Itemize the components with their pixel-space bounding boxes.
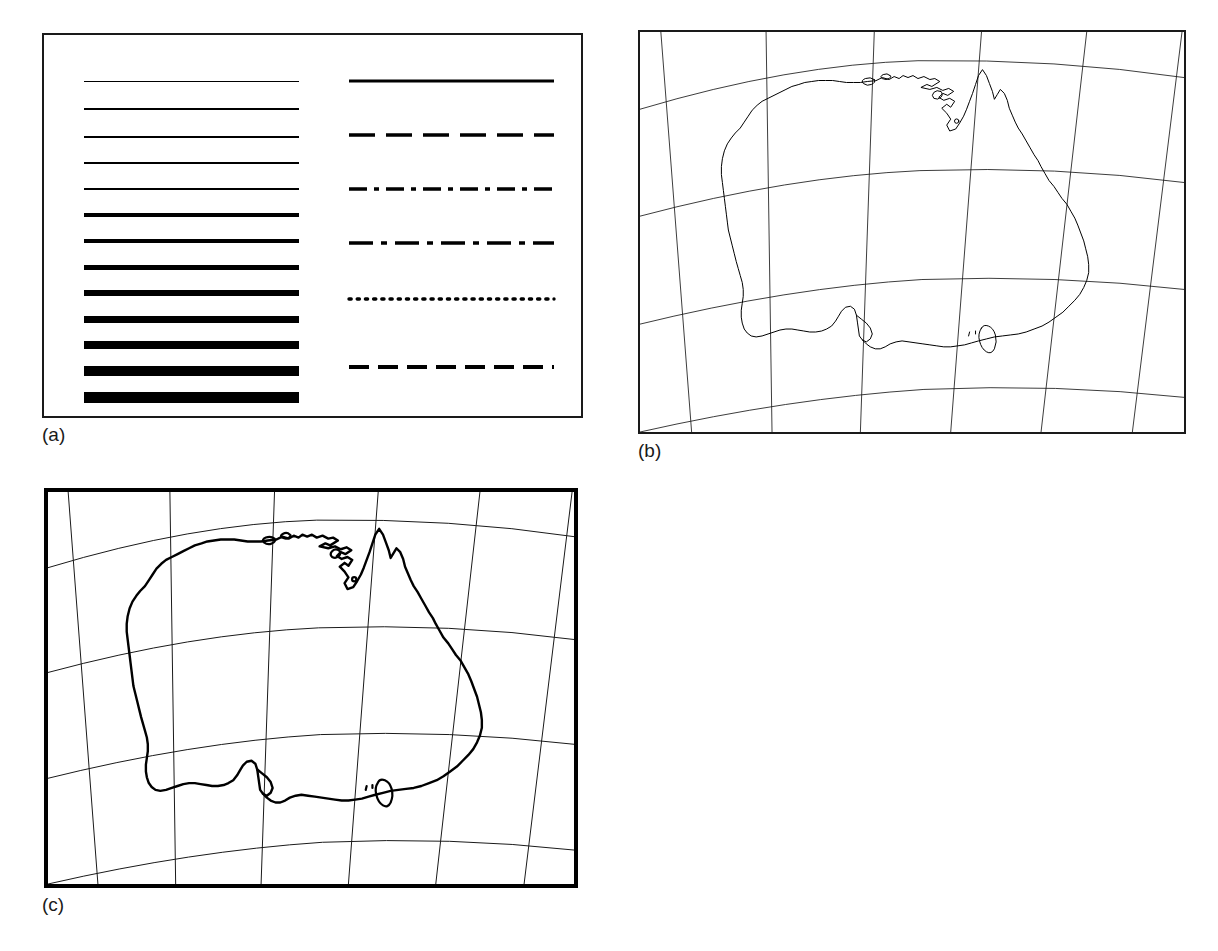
line-weight-bar [84,265,299,270]
line-weight-bar [84,316,299,323]
line-weight-specimen [84,341,299,349]
line-weight-bar [84,392,299,403]
line-weight-specimen [84,239,299,243]
line-style-specimen [349,75,554,83]
line-weight-bar [84,213,299,217]
line-weight-specimen [84,162,299,164]
line-weight-specimen [84,136,299,138]
line-weight-specimen [84,366,299,376]
line-style-sample-dash-dot [349,183,554,195]
line-style-specimen [349,237,554,245]
line-weight-specimen [84,392,299,403]
line-weight-specimen [84,213,299,217]
line-style-specimen [349,183,554,191]
line-style-specimen [349,361,554,369]
line-style-sample-dotted [349,293,554,305]
line-weight-and-style-specimen-panel [42,33,583,418]
line-weight-specimen [84,81,299,82]
line-weight-bar [84,188,299,191]
line-weight-specimen [84,108,299,109]
australia-map-thick-svg [48,492,574,884]
line-style-column [349,57,554,397]
line-weight-bar [84,239,299,243]
panel-a-caption: (a) [42,424,65,446]
line-style-sample-solid [349,75,554,87]
australia-map-thick-lines-panel [44,488,578,888]
line-weight-bar [84,81,299,82]
australia-map-thin-lines-panel [638,30,1186,434]
line-style-sample-long-dash-dot [349,237,554,249]
line-style-sample-medium-dash [349,361,554,373]
australia-coastline-thin [721,70,1088,349]
line-weight-bar [84,341,299,349]
line-weight-bar [84,136,299,138]
line-style-sample-long-dash [349,129,554,141]
australia-coastline-thick [127,529,482,803]
line-weight-specimen [84,316,299,323]
figure-canvas: (a) [0,0,1218,951]
line-weight-specimen [84,290,299,296]
graticule-thick [48,492,574,884]
line-weight-bar [84,162,299,164]
australia-map-thin-svg [640,32,1184,432]
line-style-specimen [349,293,554,301]
panel-c-caption: (c) [42,894,64,916]
line-weight-column [84,57,299,397]
australia-islands-thick [263,533,393,806]
line-weight-bar [84,290,299,296]
line-weight-specimen [84,265,299,270]
line-style-specimen [349,129,554,137]
line-weight-specimen [84,188,299,191]
panel-b-caption: (b) [638,440,661,462]
line-weight-bar [84,108,299,109]
australia-islands-thin [862,74,996,353]
graticule-thin [640,32,1184,432]
line-weight-bar [84,366,299,376]
